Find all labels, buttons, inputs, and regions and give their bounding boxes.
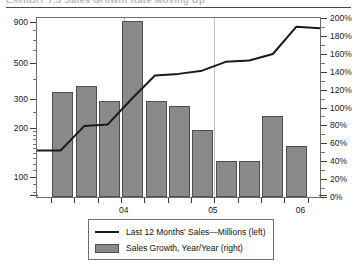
right-tick-120 [321,90,327,91]
x-tick [238,198,239,203]
right-tick-label-180: 180% [330,31,352,41]
right-tick-100 [321,108,327,109]
right-tick-140 [321,72,327,73]
right-tick-label-20: 20% [330,174,347,184]
right-tick-60 [321,143,327,144]
right-tick-label-120: 120% [330,85,352,95]
bar-swatch-icon [95,244,119,253]
sales-line-path [37,27,320,151]
left-tick-label-200: 200 [14,123,28,133]
x-tick [121,198,122,203]
right-minor-tick [321,116,325,117]
x-axis-label-06: 06 [296,205,305,215]
x-tick [214,198,215,203]
x-tick [144,198,145,203]
right-tick-label-60: 60% [330,138,347,148]
right-minor-tick [321,45,325,46]
left-tick-label-100: 100 [14,172,28,182]
left-tick-label-900: 900 [14,17,28,27]
x-tick [51,198,52,203]
right-minor-tick [321,63,325,64]
line-marker-icon [95,231,119,234]
right-tick-label-100: 100% [330,103,352,113]
right-minor-tick [321,81,325,82]
chart-legend: Last 12 Months' Sales—Millions (left) Sa… [88,219,274,260]
caption-divider [6,7,351,8]
right-tick-160 [321,54,327,55]
bottom-axis: 040506 [36,198,321,218]
legend-item-line: Last 12 Months' Sales—Millions (left) [95,224,267,240]
right-tick-40 [321,161,327,162]
legend-label-line: Last 12 Months' Sales—Millions (left) [126,227,266,237]
x-tick [74,198,75,203]
chart-figure: EXHIBIT 7.3 Sales Growth Rate Moving Up … [0,0,357,270]
left-tick-label-500: 500 [14,58,28,68]
right-tick-label-140: 140% [330,67,352,77]
right-minor-tick [321,27,325,28]
left-axis: 100200300500900 [0,17,36,198]
right-tick-label-40: 40% [330,156,347,166]
right-tick-200 [321,18,327,19]
right-tick-label-0: 0% [330,192,342,202]
right-tick-80 [321,125,327,126]
x-tick [168,198,169,203]
right-tick-180 [321,36,327,37]
x-tick [191,198,192,203]
x-axis-label-05: 05 [208,205,217,215]
right-tick-20 [321,179,327,180]
x-axis-label-04: 04 [119,205,128,215]
figure-caption: EXHIBIT 7.3 Sales Growth Rate Moving Up [6,0,306,6]
plot-area [36,17,321,198]
right-minor-tick [321,134,325,135]
left-tick-label-300: 300 [14,94,28,104]
x-tick [261,198,262,203]
legend-item-bar: Sales Growth, Year/Year (right) [95,240,267,256]
right-tick-label-200: 200% [330,13,352,23]
axis-right-cap [319,195,327,196]
right-minor-tick [321,152,325,153]
x-tick [308,198,309,203]
right-tick-label-160: 160% [330,49,352,59]
right-minor-tick [321,188,325,189]
right-tick-label-80: 80% [330,120,347,130]
right-tick-0 [321,197,327,198]
sales-line-series [37,18,320,197]
x-tick [98,198,99,203]
axis-left-cap [30,195,38,196]
right-minor-tick [321,99,325,100]
x-tick [284,198,285,203]
right-axis: 0%20%40%60%80%100%120%140%160%180%200% [321,17,357,198]
right-minor-tick [321,170,325,171]
legend-label-bar: Sales Growth, Year/Year (right) [126,243,243,253]
